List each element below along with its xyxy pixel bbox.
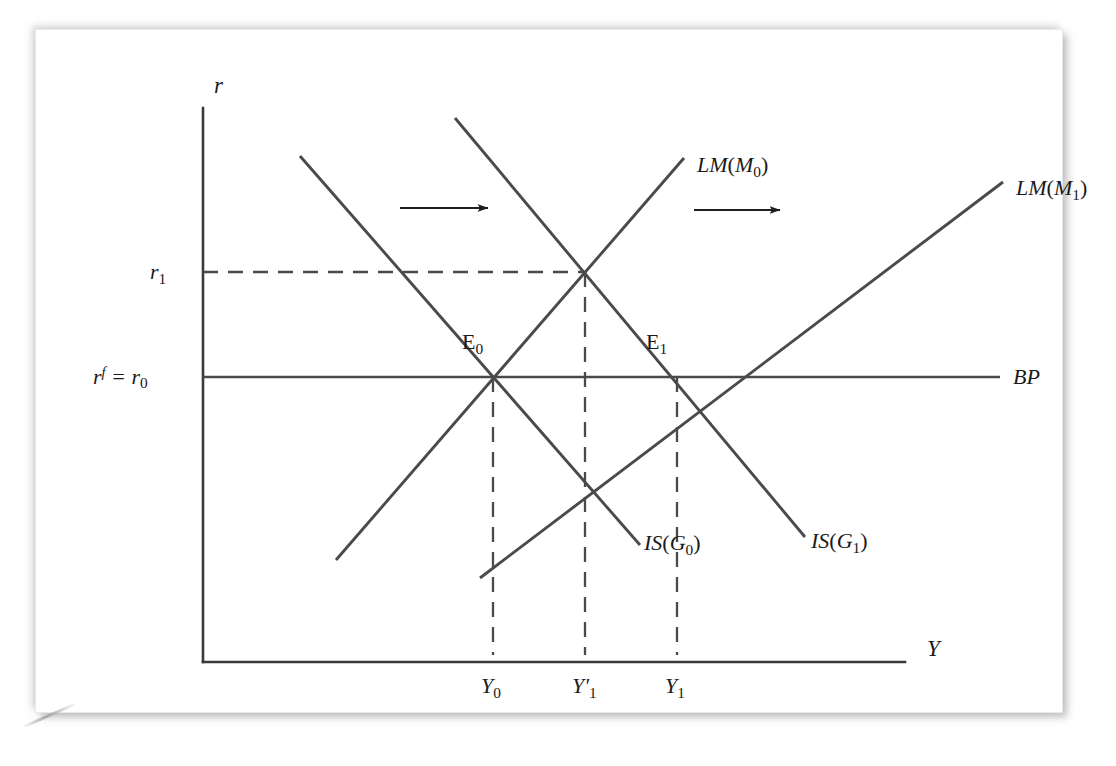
- lm-m1-main: LM: [1016, 175, 1047, 200]
- lm-m1-subscript: 1: [1072, 186, 1080, 203]
- E0-subscript: 0: [475, 340, 483, 357]
- lm-m0-main: LM: [697, 152, 728, 177]
- E1-base: E: [646, 329, 659, 354]
- lm-m0-subscript: 0: [753, 163, 761, 180]
- curve-label-is-g0: IS(G0): [644, 532, 701, 557]
- y-axis-label: r: [214, 74, 223, 97]
- page-root: r Y r1 rf = r0 Y0 Y′1 Y1 LM(M0) LM(M1) I…: [0, 0, 1116, 766]
- figure-card: [36, 30, 1062, 712]
- x-axis-label: Y: [927, 637, 940, 660]
- y-tick-label-r1: r1: [150, 261, 166, 286]
- curve-label-is-g1: IS(G1): [811, 530, 868, 555]
- is-g1-main: IS: [811, 528, 829, 553]
- Y1prime-base: Y: [572, 673, 584, 698]
- curve-label-bp: BP: [1013, 366, 1040, 388]
- x-tick-label-Y0: Y0: [481, 675, 501, 700]
- r0-subscript: 0: [140, 374, 148, 391]
- y-tick-r1-subscript: 1: [159, 270, 167, 287]
- curve-label-lm-m1: LM(M1): [1016, 177, 1087, 202]
- E1-subscript: 1: [659, 340, 667, 357]
- rf-base: r: [93, 364, 102, 389]
- is-g1-arg: G: [837, 528, 853, 553]
- x-tick-label-Y1-prime: Y′1: [572, 675, 597, 701]
- Y0-base: Y: [481, 673, 493, 698]
- Y1-subscript: 1: [677, 684, 685, 701]
- lm-m1-arg: M: [1054, 175, 1072, 200]
- Y1prime-subscript: 1: [589, 684, 597, 701]
- equilibrium-label-E1: E1: [646, 331, 667, 356]
- equilibrium-label-E0: E0: [462, 331, 483, 356]
- Y1-base: Y: [665, 673, 677, 698]
- Y0-subscript: 0: [493, 684, 501, 701]
- x-tick-label-Y1: Y1: [665, 675, 685, 700]
- y-tick-r1-base: r: [150, 259, 159, 284]
- y-tick-label-rf-r0: rf = r0: [93, 365, 148, 391]
- E0-base: E: [462, 329, 475, 354]
- is-g0-arg: G: [670, 530, 686, 555]
- lm-m0-arg: M: [735, 152, 753, 177]
- is-g0-main: IS: [644, 530, 662, 555]
- rf-equals-r: = r: [106, 364, 140, 389]
- curve-label-lm-m0: LM(M0): [697, 154, 768, 179]
